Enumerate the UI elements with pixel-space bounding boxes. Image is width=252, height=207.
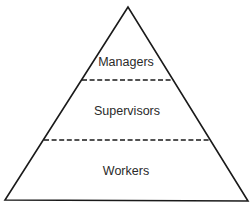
pyramid-diagram: Managers Supervisors Workers: [0, 0, 252, 207]
level-label-managers: Managers: [98, 55, 154, 69]
level-label-supervisors: Supervisors: [94, 104, 160, 118]
level-label-workers: Workers: [103, 164, 149, 178]
